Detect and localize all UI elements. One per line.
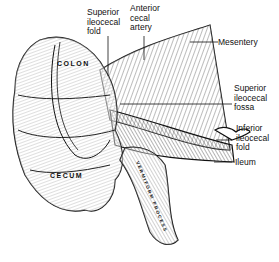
colon-cecum-shape: COLON CECUM (13, 37, 122, 211)
vermiform-process-shape: VERMIFORM PROCESS (120, 147, 178, 244)
mesentery-label: Mesentery (218, 38, 258, 48)
cecum-label: CECUM (50, 172, 83, 179)
superior-ileocecal-fold-label: Superior ileocecal fold (87, 8, 120, 37)
superior-ileocecal-fossa-label: Superior ileocecal fossa (234, 84, 267, 113)
ileum-label: Ileum (235, 158, 256, 168)
anterior-cecal-artery-label: Anterior cecal artery (130, 4, 160, 33)
colon-label: COLON (57, 60, 90, 67)
inferior-ileocecal-fold-label: Inferior ileocecal fold (236, 124, 269, 153)
